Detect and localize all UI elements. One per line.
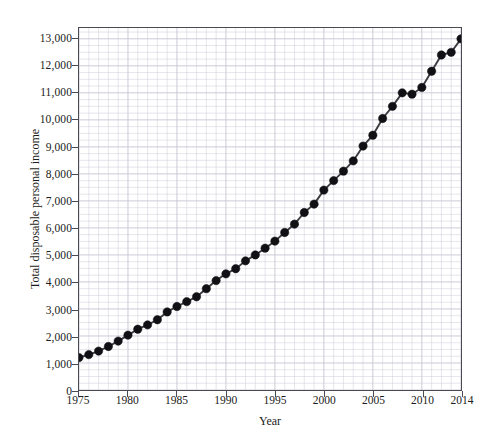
x-tick-mark (324, 391, 325, 397)
x-tick-mark (127, 391, 128, 397)
x-tick-mark (462, 391, 463, 397)
x-tick-mark (226, 391, 227, 397)
x-tick-mark (176, 391, 177, 397)
x-tick-mark (373, 391, 374, 397)
x-tick-mark (78, 391, 79, 397)
chart-figure: 01,0002,0003,0004,0005,0006,0007,0008,00… (0, 0, 502, 446)
x-tick-mark (423, 391, 424, 397)
x-tick-mark (275, 391, 276, 397)
x-axis-tick-labels: 197519801985199019952000200520102014 (0, 0, 502, 446)
x-axis-title: Year (78, 414, 462, 429)
